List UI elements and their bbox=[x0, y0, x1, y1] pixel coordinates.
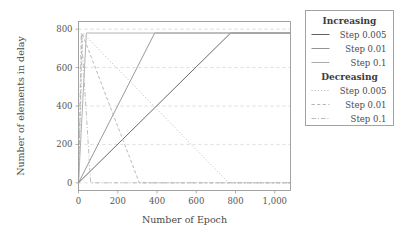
legend-entry-label: Step 0.1 bbox=[351, 114, 387, 124]
x-tick-label: 0 bbox=[76, 196, 81, 206]
legend-group-header: Increasing bbox=[323, 16, 378, 26]
chart-figure: 02004006008001,000 0200400600800 Number … bbox=[0, 0, 401, 250]
y-axis-title: Number of elements in delay bbox=[15, 36, 26, 176]
y-axis-ticks: 0200400600800 bbox=[56, 24, 78, 188]
x-tick-label: 600 bbox=[188, 196, 204, 206]
legend-entry-label: Step 0.005 bbox=[340, 86, 387, 96]
x-axis-ticks: 02004006008001,000 bbox=[76, 191, 287, 206]
y-tick-label: 0 bbox=[67, 178, 72, 188]
x-tick-label: 800 bbox=[227, 196, 243, 206]
line-chart: 02004006008001,000 0200400600800 Number … bbox=[0, 0, 401, 250]
x-tick-label: 400 bbox=[149, 196, 165, 206]
x-axis-title: Number of Epoch bbox=[142, 214, 227, 225]
grid-lines bbox=[79, 29, 291, 183]
y-tick-label: 200 bbox=[56, 139, 72, 149]
y-tick-label: 600 bbox=[56, 63, 72, 73]
series-decreasing-step-0-01 bbox=[79, 33, 291, 183]
legend-entry-label: Step 0.005 bbox=[340, 30, 387, 40]
legend-group-header: Decreasing bbox=[321, 72, 378, 82]
legend-entry-label: Step 0.01 bbox=[345, 100, 386, 110]
x-tick-label: 200 bbox=[110, 196, 126, 206]
series-lines bbox=[79, 33, 291, 183]
chart-legend: IncreasingStep 0.005Step 0.01Step 0.1Dec… bbox=[306, 11, 394, 126]
legend-entry-label: Step 0.01 bbox=[345, 44, 386, 54]
x-tick-label: 1,000 bbox=[263, 196, 287, 206]
y-tick-label: 400 bbox=[56, 101, 72, 111]
y-tick-label: 800 bbox=[56, 24, 72, 34]
legend-entry-label: Step 0.1 bbox=[351, 58, 387, 68]
